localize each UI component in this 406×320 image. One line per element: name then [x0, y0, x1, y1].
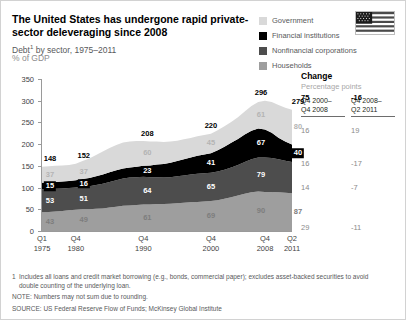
change-col1-line2: Q4 2008: [301, 105, 351, 114]
value-label-government-q4-2008: 61: [257, 111, 265, 119]
x-tick-year-2000: 2000: [203, 244, 220, 254]
value-label-financial-q2-2011: 40: [292, 149, 304, 159]
change-table-title: Change: [301, 71, 401, 81]
x-tick-year-2008: 2008: [257, 244, 274, 254]
x-tick-quarter-2011: Q2: [284, 234, 300, 244]
x-tick-1980: Q41980: [67, 234, 84, 254]
change-value-financial-2: -17: [351, 159, 401, 168]
change-row-households: 29-11: [301, 223, 401, 232]
x-tick-2008: Q42008: [257, 234, 274, 254]
y-tick-250: 250: [12, 118, 34, 127]
y-tickmark-350: [38, 79, 41, 80]
value-label-government-q4-1980: 37: [80, 168, 88, 176]
legend-label-nonfinancial: Nonfinancial corporations: [272, 46, 357, 55]
value-label-households-q4-2008: 90: [257, 208, 265, 216]
x-tick-year-1980: 1980: [67, 244, 84, 254]
footnote-1-number: 1: [12, 273, 19, 282]
legend-label-financial: Financial institutions: [272, 31, 340, 40]
x-axis: Q11975Q41980Q41990Q42000Q42008Q22011: [42, 234, 298, 260]
y-tickmark-100: [38, 188, 41, 189]
value-label-financial-q1-1975: 15: [44, 181, 56, 191]
footnote-1: 1Includes all loans and credit market bo…: [12, 273, 398, 282]
y-tick-0: 0: [12, 227, 34, 236]
value-label-financial-q4-1980: 16: [78, 179, 90, 189]
value-label-total-q2-2011: 279: [292, 99, 305, 107]
value-label-total-q4-2008: 296: [255, 90, 268, 98]
legend-item-government[interactable]: Government: [259, 14, 357, 27]
y-tickmark-200: [38, 144, 41, 145]
value-label-nonfinancial-q2-2011: 72: [294, 174, 302, 182]
value-label-nonfinancial-q1-1975: 53: [46, 197, 54, 205]
change-col1-rule: [301, 116, 345, 117]
y-axis: 050100150200250300350: [12, 79, 38, 231]
x-axis-line: [41, 231, 292, 232]
united-states-flag-icon: [355, 11, 395, 35]
x-tick-quarter-2000: Q4: [203, 234, 220, 244]
y-tick-350: 350: [12, 75, 34, 84]
change-value-government-1: 16: [301, 126, 351, 135]
value-label-financial-q4-2008: 67: [255, 139, 267, 149]
legend-swatch-households: [259, 62, 267, 70]
change-value-total-2: -16: [351, 93, 401, 102]
y-tickmark-150: [38, 166, 41, 167]
change-table-subtitle: Percentage points: [301, 82, 401, 91]
x-tick-quarter-1990: Q4: [135, 234, 152, 244]
y-tick-300: 300: [12, 96, 34, 105]
change-table: Change Percentage points Q4 2000– Q4 200…: [301, 71, 401, 117]
legend-swatch-nonfinancial: [259, 47, 267, 55]
footnote-1-continuation: double counting of the underlying loan.: [12, 282, 398, 291]
chart-plot-area: 050100150200250300350 148371553431523716…: [12, 79, 292, 249]
change-value-financial-1: 16: [301, 159, 351, 168]
change-col2-line2: Q2 2011: [351, 105, 401, 114]
value-label-government-q1-1975: 37: [46, 171, 54, 179]
legend-swatch-financial: [259, 32, 267, 40]
legend-item-financial[interactable]: Financial institutions: [259, 29, 357, 42]
footnote-1-text: Includes all loans and credit market bor…: [19, 273, 368, 280]
page-title: The United States has undergone rapid pr…: [12, 13, 257, 39]
x-tick-quarter-1975: Q1: [34, 234, 51, 244]
legend-label-households: Households: [272, 61, 312, 70]
change-value-total-1: 75: [301, 93, 351, 102]
value-label-total-q4-2000: 220: [205, 123, 218, 131]
x-tick-1990: Q41990: [135, 234, 152, 254]
value-label-households-q4-1980: 49: [80, 217, 88, 225]
change-value-households-1: 29: [301, 223, 351, 232]
value-label-households-q4-2000: 69: [207, 212, 215, 220]
value-label-government-q4-2000: 45: [207, 140, 215, 148]
x-tick-1975: Q11975: [34, 234, 51, 254]
value-label-nonfinancial-q4-2000: 65: [207, 183, 215, 191]
change-value-government-2: 19: [351, 126, 401, 135]
x-tick-year-2011: 2011: [284, 244, 300, 254]
change-value-nonfinancial-1: 14: [301, 183, 351, 192]
footnotes: 1Includes all loans and credit market bo…: [12, 273, 398, 313]
chart-source: SOURCE: US Federal Reserve Flow of Funds…: [12, 305, 398, 314]
change-col2-rule: [351, 116, 395, 117]
y-tickmark-50: [38, 209, 41, 210]
legend-swatch-government: [259, 17, 267, 25]
chart-legend: GovernmentFinancial institutionsNonfinan…: [259, 14, 357, 74]
value-label-financial-q4-2000: 41: [205, 158, 217, 168]
change-row-financial: 16-17: [301, 159, 401, 168]
chart-unit-label: % of GDP: [12, 53, 50, 63]
x-tick-2000: Q42000: [203, 234, 220, 254]
value-label-total-q4-1990: 208: [141, 130, 154, 138]
y-tick-150: 150: [12, 161, 34, 170]
x-tick-quarter-2008: Q4: [257, 234, 274, 244]
value-label-households-q4-1990: 61: [143, 214, 151, 222]
y-tick-200: 200: [12, 140, 34, 149]
change-value-nonfinancial-2: -7: [351, 183, 401, 192]
y-tickmark-250: [38, 122, 41, 123]
value-label-government-q2-2011: 80: [294, 123, 302, 131]
change-row-nonfinancial: 14-7: [301, 183, 401, 192]
y-tick-50: 50: [12, 205, 34, 214]
value-label-total-q4-1980: 152: [78, 153, 91, 161]
legend-label-government: Government: [272, 16, 313, 25]
value-label-nonfinancial-q4-2008: 79: [257, 171, 265, 179]
change-row-total: 75-16: [301, 93, 401, 102]
value-label-households-q1-1975: 43: [46, 218, 54, 226]
legend-item-nonfinancial[interactable]: Nonfinancial corporations: [259, 44, 357, 57]
x-tick-year-1975: 1975: [34, 244, 51, 254]
x-tick-year-1990: 1990: [135, 244, 152, 254]
change-row-government: 1619: [301, 126, 401, 135]
x-tick-2011: Q22011: [284, 234, 300, 254]
